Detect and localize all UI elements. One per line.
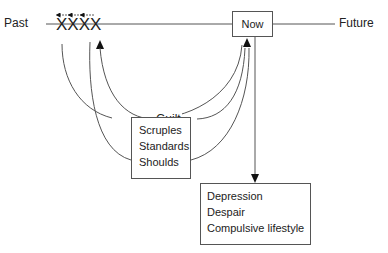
scruples-box: Scruples Standards Shoulds [131, 117, 191, 179]
scruples-item: Scruples [139, 122, 190, 138]
past-label: Past [4, 17, 28, 30]
shoulds-item: Shoulds [139, 154, 190, 170]
now-label: Now [241, 18, 263, 30]
outcome-box: Depression Despair Compulsive lifestyle [200, 183, 311, 245]
standards-item: Standards [139, 138, 190, 154]
guilt-diagram: Past XXXX Now Future Guilt Scruples Stan… [0, 0, 388, 253]
now-box: Now [232, 11, 273, 37]
depression-item: Depression [207, 188, 310, 204]
despair-item: Despair [207, 204, 310, 220]
compulsive-lifestyle-item: Compulsive lifestyle [207, 220, 310, 236]
past-event-marks: XXXX [56, 16, 101, 33]
future-label: Future [339, 17, 374, 30]
diagram-lines [0, 0, 388, 253]
